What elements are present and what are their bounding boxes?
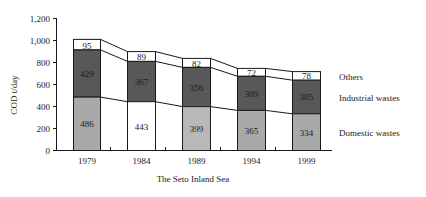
y-axis-title: COD t/day [9,75,19,115]
chart-canvas: COD t/day 1,200 1,000 800 600 400 200 0 [0,0,426,197]
bar-1989[interactable]: 82 356 399 [183,58,211,150]
bar-1979-industrial-value: 429 [80,69,94,79]
bar-1999-industrial-value: 305 [300,92,314,102]
bar-1994-industrial-value: 309 [245,89,259,99]
bar-1979-others-value: 95 [83,41,93,51]
legend-item-industrial[interactable]: Industrial wastes [339,93,400,103]
bar-1994[interactable]: 72 309 365 [238,68,266,151]
y-tick-600: 600 [37,80,51,90]
bar-1984-industrial-value: 367 [135,77,149,87]
bar-1989-industrial-value: 356 [190,83,204,93]
y-tick-800: 800 [37,58,51,68]
bar-1984-domestic-value: 443 [135,122,149,132]
bar-1989-domestic-value: 399 [190,124,204,134]
x-axis-title: The Seto Inland Sea [157,174,230,184]
chart-figure: COD t/day 1,200 1,000 800 600 400 200 0 [0,0,426,197]
x-tick-1999: 1999 [298,156,317,166]
y-axis-tick-labels: 1,200 1,000 800 600 400 200 0 [30,14,51,156]
bar-1999-domestic-value: 334 [300,128,314,138]
x-axis-tick-labels: 1979 1984 1989 1994 1999 [78,156,316,166]
y-tick-marks [53,19,57,151]
y-tick-400: 400 [37,102,51,112]
y-tick-1000: 1,000 [30,36,51,46]
bar-1984-others-value: 89 [137,52,147,62]
chart-legend: Others Industrial wastes Domestic wastes [339,72,400,139]
y-tick-200: 200 [37,124,51,134]
legend-item-domestic[interactable]: Domestic wastes [339,128,400,138]
bar-1979[interactable]: 95 429 486 [74,39,101,150]
x-tick-1979: 1979 [78,156,97,166]
x-tick-1989: 1989 [188,156,207,166]
bar-1999[interactable]: 78 305 334 [293,71,321,150]
bar-1979-domestic-value: 486 [80,119,94,129]
x-tick-1984: 1984 [133,156,152,166]
bar-1994-domestic-value: 365 [245,126,259,136]
bar-1994-others-value: 72 [247,68,256,78]
y-tick-1200: 1,200 [30,14,51,24]
bar-1984[interactable]: 89 367 443 [128,52,156,151]
bar-1989-others-value: 82 [192,59,201,69]
x-tick-1994: 1994 [243,156,262,166]
y-tick-0: 0 [46,146,51,156]
legend-item-others[interactable]: Others [339,72,363,82]
bar-1999-others-value: 78 [302,71,312,81]
